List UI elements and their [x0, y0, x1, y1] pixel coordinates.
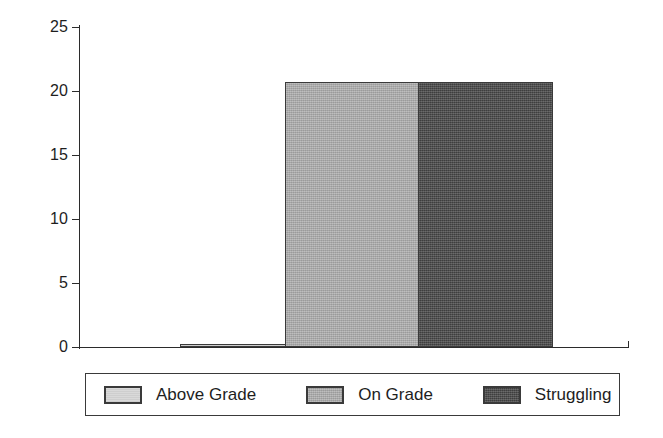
legend-item-above-grade: Above Grade: [104, 374, 256, 415]
y-tick-mark-25: [72, 27, 79, 28]
bar-above-grade: [180, 344, 290, 347]
x-axis-line: [79, 347, 629, 348]
y-tick-25: 25: [0, 19, 68, 35]
y-tick-15: 15: [0, 147, 68, 163]
y-tick-mark-0: [72, 347, 79, 348]
y-tick-0: 0: [0, 339, 68, 355]
y-tick-mark-20: [72, 91, 79, 92]
y-tick-mark-15: [72, 155, 79, 156]
y-tick-10: 10: [0, 211, 68, 227]
y-tick-label-10: 10: [2, 211, 68, 227]
legend-label-on-grade: On Grade: [358, 386, 433, 403]
y-tick-mark-10: [72, 219, 79, 220]
legend-label-above-grade: Above Grade: [156, 386, 256, 403]
legend-swatch-above-grade-icon: [104, 386, 142, 404]
legend-label-struggling: Struggling: [535, 386, 612, 403]
bar-chart: 25 20 15 10 5 0 Above Grade On Grade: [0, 0, 663, 438]
y-axis-line: [79, 25, 80, 349]
y-tick-20: 20: [0, 83, 68, 99]
x-axis-end-tick: [628, 341, 629, 348]
y-tick-label-0: 0: [2, 339, 68, 355]
y-tick-mark-5: [72, 283, 79, 284]
bar-on-grade: [285, 82, 419, 347]
legend-swatch-on-grade-icon: [306, 386, 344, 404]
y-tick-label-25: 25: [2, 19, 68, 35]
y-tick-5: 5: [0, 275, 68, 291]
legend-item-on-grade: On Grade: [306, 374, 433, 415]
y-tick-label-15: 15: [2, 147, 68, 163]
legend-item-struggling: Struggling: [483, 374, 612, 415]
y-tick-label-5: 5: [2, 275, 68, 291]
legend-swatch-struggling-icon: [483, 386, 521, 404]
legend: Above Grade On Grade Struggling: [85, 373, 620, 416]
bar-struggling: [418, 82, 553, 347]
y-tick-label-20: 20: [2, 83, 68, 99]
